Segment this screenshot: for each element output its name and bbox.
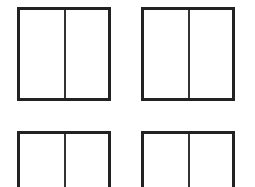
panel-divider — [188, 134, 190, 187]
panel-top-right — [141, 7, 235, 101]
panel-top-left — [17, 7, 111, 101]
panel-bottom-left — [17, 131, 111, 187]
panel-divider — [64, 134, 66, 187]
panel-divider — [188, 10, 190, 98]
panel-bottom-right — [141, 131, 235, 187]
diagram-canvas — [0, 0, 255, 187]
panel-divider — [64, 10, 66, 98]
